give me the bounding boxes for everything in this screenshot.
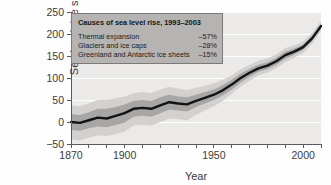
annotation-row-label: Greenland and Antarctic ice sheets xyxy=(78,50,195,59)
y-tick-label: 200 xyxy=(46,28,64,40)
annotation-row: Glaciers and ice caps–28% xyxy=(78,41,217,50)
annotation-title: Causes of sea level rise, 1993–2003 xyxy=(78,18,217,27)
sea-level-rise-chart: −50050100150200250 1870190019502000 Year… xyxy=(0,0,331,185)
y-tick-label: 150 xyxy=(46,50,64,62)
x-tick-label: 1870 xyxy=(59,149,83,161)
x-axis-ticks: 1870190019502000 xyxy=(59,144,321,161)
annotation-row-value: –57% xyxy=(199,32,217,41)
x-tick-label: 1900 xyxy=(113,149,137,161)
annotation-row: Thermal expansion–57% xyxy=(78,32,217,41)
annotation-row-value: –15% xyxy=(199,50,217,59)
x-axis-title: Year xyxy=(185,170,208,182)
causes-annotation-box: Causes of sea level rise, 1993–2003 Ther… xyxy=(71,13,223,64)
annotation-row-label: Glaciers and ice caps xyxy=(78,41,153,50)
y-tick-label: 100 xyxy=(46,72,64,84)
annotation-rows: Thermal expansion–57%Glaciers and ice ca… xyxy=(78,32,217,59)
x-tick-label: 1950 xyxy=(202,149,226,161)
annotation-row-label: Thermal expansion xyxy=(78,32,145,41)
y-tick-label: 250 xyxy=(46,6,64,18)
y-tick-label: 0 xyxy=(58,116,64,128)
y-tick-label: 50 xyxy=(52,94,64,106)
annotation-row-value: –28% xyxy=(199,41,217,50)
x-tick-label: 2000 xyxy=(291,149,315,161)
y-tick-label: −50 xyxy=(46,138,64,150)
annotation-row: Greenland and Antarctic ice sheets–15% xyxy=(78,50,217,59)
